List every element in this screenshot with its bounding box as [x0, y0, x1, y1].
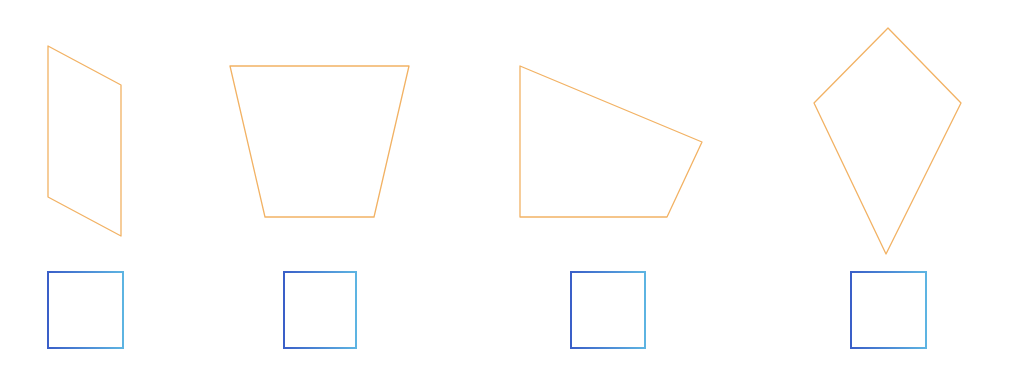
kite-shape [814, 28, 961, 254]
trapezoid-shape [230, 66, 409, 217]
option-4-box[interactable] [851, 272, 926, 348]
option-boxes-group [48, 272, 926, 348]
option-2-box[interactable] [284, 272, 356, 348]
shapes-group [48, 28, 961, 254]
right-trapezoid-shape [520, 66, 702, 217]
parallelogram-shape [48, 46, 121, 236]
diagram-canvas [0, 0, 1020, 366]
option-3-box[interactable] [571, 272, 645, 348]
option-1-box[interactable] [48, 272, 123, 348]
